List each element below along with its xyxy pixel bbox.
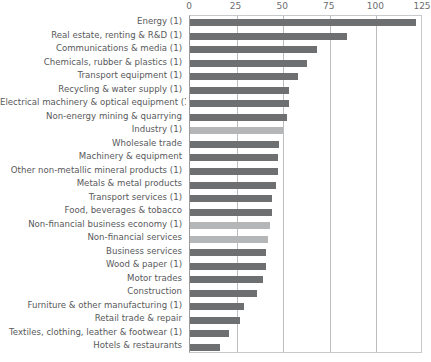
bar: [190, 222, 270, 229]
bar: [190, 141, 279, 148]
bar: [190, 46, 317, 53]
bar: [190, 290, 257, 297]
category-label: Wood & paper (1): [0, 258, 186, 272]
category-label: Transport services (1): [0, 191, 186, 205]
bar: [190, 154, 278, 161]
category-label: Construction: [0, 285, 186, 299]
x-tick-label: 25: [230, 1, 241, 12]
bar: [190, 33, 347, 40]
x-tick-label: 100: [367, 1, 384, 12]
bar: [190, 127, 283, 134]
category-label: Motor trades: [0, 272, 186, 286]
category-label: Chemicals, rubber & plastics (1): [0, 56, 186, 70]
x-tick-label: 50: [276, 1, 287, 12]
bar: [190, 19, 416, 26]
bar: [190, 263, 266, 270]
category-label: Textiles, clothing, leather & footwear (…: [0, 326, 186, 340]
bar: [190, 73, 298, 80]
plot-wrap: Energy (1)Real estate, renting & R&D (1)…: [0, 15, 431, 355]
category-label: Industry (1): [0, 123, 186, 137]
category-label: Non-financial business economy (1): [0, 218, 186, 232]
bar-chart: 0255075100125 Energy (1)Real estate, ren…: [0, 0, 431, 362]
category-label: Transport equipment (1): [0, 69, 186, 83]
category-label: Non-financial services: [0, 231, 186, 245]
bar: [190, 87, 289, 94]
bar: [190, 182, 276, 189]
bar: [190, 236, 268, 243]
bar: [190, 344, 220, 351]
category-axis-labels: Energy (1)Real estate, renting & R&D (1)…: [0, 15, 186, 355]
category-label: Wholesale trade: [0, 137, 186, 151]
category-label: Machinery & equipment: [0, 150, 186, 164]
bar: [190, 100, 289, 107]
category-label: Electrical machinery & optical equipment…: [0, 96, 186, 110]
bar-series: [190, 16, 421, 352]
category-label: Real estate, renting & R&D (1): [0, 29, 186, 43]
x-tick-label: 0: [186, 1, 192, 12]
category-label: Furniture & other manufacturing (1): [0, 299, 186, 313]
x-axis: 0255075100125: [0, 0, 431, 16]
category-label: Metals & metal products: [0, 177, 186, 191]
bar: [190, 276, 263, 283]
bar: [190, 303, 244, 310]
category-label: Other non-metallic mineral products (1): [0, 164, 186, 178]
bar: [190, 209, 272, 216]
category-label: Energy (1): [0, 15, 186, 29]
category-label: Business services: [0, 245, 186, 259]
bar: [190, 168, 278, 175]
category-label: Hotels & restaurants: [0, 339, 186, 353]
bar: [190, 195, 272, 202]
bar: [190, 249, 266, 256]
bar: [190, 317, 240, 324]
bar: [190, 114, 287, 121]
category-label: Retail trade & repair: [0, 312, 186, 326]
category-label: Communications & media (1): [0, 42, 186, 56]
bar: [190, 330, 229, 337]
category-label: Non-energy mining & quarrying: [0, 110, 186, 124]
bar: [190, 60, 307, 67]
category-label: Recycling & water supply (1): [0, 83, 186, 97]
x-tick-label: 75: [323, 1, 334, 12]
x-tick-label: 125: [413, 1, 430, 12]
category-label: Food, beverages & tobacco: [0, 204, 186, 218]
plot-area: [189, 15, 422, 353]
